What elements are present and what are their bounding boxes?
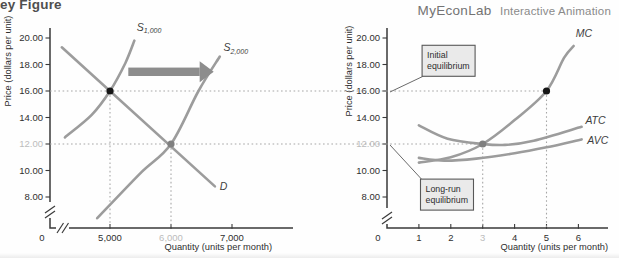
market-y-tick-14: 14.00 — [19, 112, 43, 123]
initial-equilibrium-callout-text: equilibrium — [427, 61, 470, 71]
figure-canvas: 20.0018.0016.0014.0012.0010.008.0005,000… — [0, 0, 619, 258]
firm-y-axis-title: Price (dollars per unit) — [344, 26, 354, 117]
label-average-variable-cost: AVC — [586, 134, 608, 146]
long-run-equilibrium-callout-leader — [390, 145, 421, 179]
firm-y-tick-12: 12.00 — [356, 138, 380, 149]
long-run-equilibrium-callout-text: Long-run — [425, 184, 460, 194]
curve-average-total-cost — [419, 125, 582, 145]
firm-y-tick-14: 14.00 — [356, 112, 380, 123]
market-initial-equilibrium-point — [106, 87, 113, 94]
market-y-tick-18: 18.00 — [19, 59, 43, 70]
initial-equilibrium-callout-text: Initial — [427, 50, 448, 60]
market-y-tick-10: 10.00 — [19, 165, 43, 176]
market-x-tick-5: 5,000 — [98, 232, 122, 243]
supply-shift-arrow — [128, 68, 199, 76]
curve-average-variable-cost — [419, 139, 582, 160]
econ-figure-page: ey Figure MyEconLab Interactive Animatio… — [0, 0, 619, 258]
firm-x-tick-2: 2 — [448, 232, 453, 243]
firm-y-tick-10: 10.00 — [356, 165, 380, 176]
label-supply-initial: S1,000 — [137, 21, 162, 35]
label-supply-new: S2,000 — [224, 41, 249, 55]
firm-y-tick-20: 20.00 — [356, 32, 380, 43]
market-y-tick-20: 20.00 — [19, 32, 43, 43]
market-y-axis-title: Price (dollars per unit) — [3, 16, 13, 107]
firm-x-tick-0: 0 — [375, 232, 380, 243]
label-demand: D — [220, 180, 228, 192]
long-run-equilibrium-callout-text: equilibrium — [425, 195, 468, 205]
market-y-tick-12: 12.00 — [19, 138, 43, 149]
firm-x-axis-title: Quantity (units per month) — [501, 242, 608, 252]
firm-y-tick-8: 8.00 — [362, 191, 381, 202]
scan-edge-shadow — [0, 253, 619, 258]
firm-x-tick-1: 1 — [416, 232, 421, 243]
market-y-tick-16: 16.00 — [19, 85, 43, 96]
market-axes — [50, 28, 293, 228]
market-long-run-equilibrium-point — [167, 140, 174, 147]
firm-y-tick-16: 16.00 — [356, 85, 380, 96]
label-average-total-cost: ATC — [584, 114, 606, 126]
curve-supply-initial — [65, 41, 134, 138]
firm-long-run-equilibrium-point — [479, 140, 486, 147]
label-marginal-cost: MC — [576, 27, 593, 39]
firm-y-tick-18: 18.00 — [356, 59, 380, 70]
market-y-tick-8: 8.00 — [25, 191, 44, 202]
market-x-axis-title: Quantity (units per month) — [165, 242, 272, 252]
initial-equilibrium-callout-leader — [390, 76, 423, 92]
firm-x-tick-3: 3 — [480, 232, 485, 243]
firm-initial-equilibrium-point — [543, 87, 550, 94]
market-x-tick-0: 0 — [39, 232, 44, 243]
